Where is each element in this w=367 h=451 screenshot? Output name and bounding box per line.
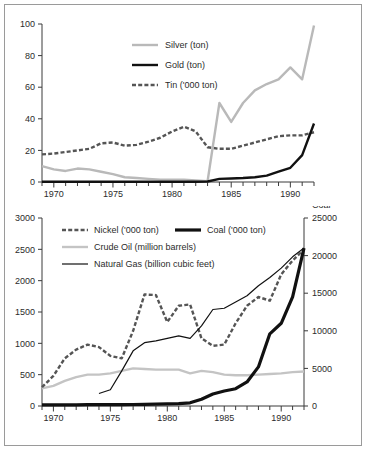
bottom-y-tick-label: 0: [30, 401, 35, 411]
bottom-y2-tick-label: 10000: [312, 326, 337, 336]
bottom-y-tick-label: 2500: [15, 245, 35, 255]
bottom-y2-tick-label: 0: [312, 401, 317, 411]
bottom-y2-tick-label: 15000: [312, 288, 337, 298]
bottom-chart-svg: 0500100015002000250030000500010000150002…: [0, 206, 367, 446]
series-line: [42, 368, 304, 388]
bottom-y-tick-label: 2000: [15, 276, 35, 286]
bottom-y2-tick-label: 20000: [312, 251, 337, 261]
bottom-x-tick-label: 1980: [157, 413, 177, 423]
top-chart-svg: 02040608010019701975198019851990Silver (…: [0, 6, 367, 206]
bottom-y-tick-label: 1500: [15, 307, 35, 317]
top-y-tick-label: 100: [20, 19, 35, 29]
top-y-tick-label: 0: [30, 177, 35, 187]
series-line: [42, 248, 304, 405]
legend-label: Silver (ton): [165, 40, 209, 50]
top-x-tick-label: 1975: [103, 189, 123, 199]
top-chart-legend: Silver (ton)Gold (ton)Tin ('000 ton): [132, 40, 217, 90]
bottom-y-tick-label: 1000: [15, 339, 35, 349]
bottom-y2-tick-label: 25000: [312, 213, 337, 223]
bottom-x-tick-label: 1985: [214, 413, 234, 423]
bottom-y-tick-label: 3000: [15, 213, 35, 223]
legend-label: Natural Gas (billion cubic feet): [94, 259, 215, 269]
top-y-tick-label: 80: [25, 51, 35, 61]
bottom-chart-axes: 0500100015002000250030000500010000150002…: [15, 206, 337, 423]
top-x-tick-label: 1970: [44, 189, 64, 199]
top-x-tick-label: 1990: [280, 189, 300, 199]
bottom-x-tick-label: 1975: [100, 413, 120, 423]
bottom-y2-tick-label: 5000: [312, 364, 332, 374]
legend-label: Gold (ton): [165, 60, 205, 70]
series-line: [42, 249, 304, 387]
series-line: [42, 127, 314, 155]
bottom-chart-legend: Nickel ('000 ton)Crude Oil (million barr…: [62, 225, 266, 269]
legend-label: Coal ('000 ton): [207, 225, 266, 235]
top-x-tick-label: 1980: [162, 189, 182, 199]
bottom-chart-panel: 0500100015002000250030000500010000150002…: [0, 206, 367, 446]
series-line: [42, 124, 314, 182]
bottom-x-tick-label: 1970: [43, 413, 63, 423]
bottom-y-tick-label: 500: [20, 370, 35, 380]
bottom-x-tick-label: 1990: [271, 413, 291, 423]
top-y-tick-label: 40: [25, 114, 35, 124]
legend-label: Tin ('000 ton): [165, 80, 217, 90]
top-y-tick-label: 20: [25, 146, 35, 156]
top-y-tick-label: 60: [25, 82, 35, 92]
legend-label: Nickel ('000 ton): [94, 225, 159, 235]
figure-root: 02040608010019701975198019851990Silver (…: [0, 0, 367, 451]
top-x-tick-label: 1985: [221, 189, 241, 199]
legend-label: Crude Oil (million barrels): [94, 242, 196, 252]
bottom-chart-series: [42, 248, 304, 405]
top-chart-panel: 02040608010019701975198019851990Silver (…: [0, 6, 367, 206]
secondary-axis-title: Coal: [312, 206, 331, 210]
